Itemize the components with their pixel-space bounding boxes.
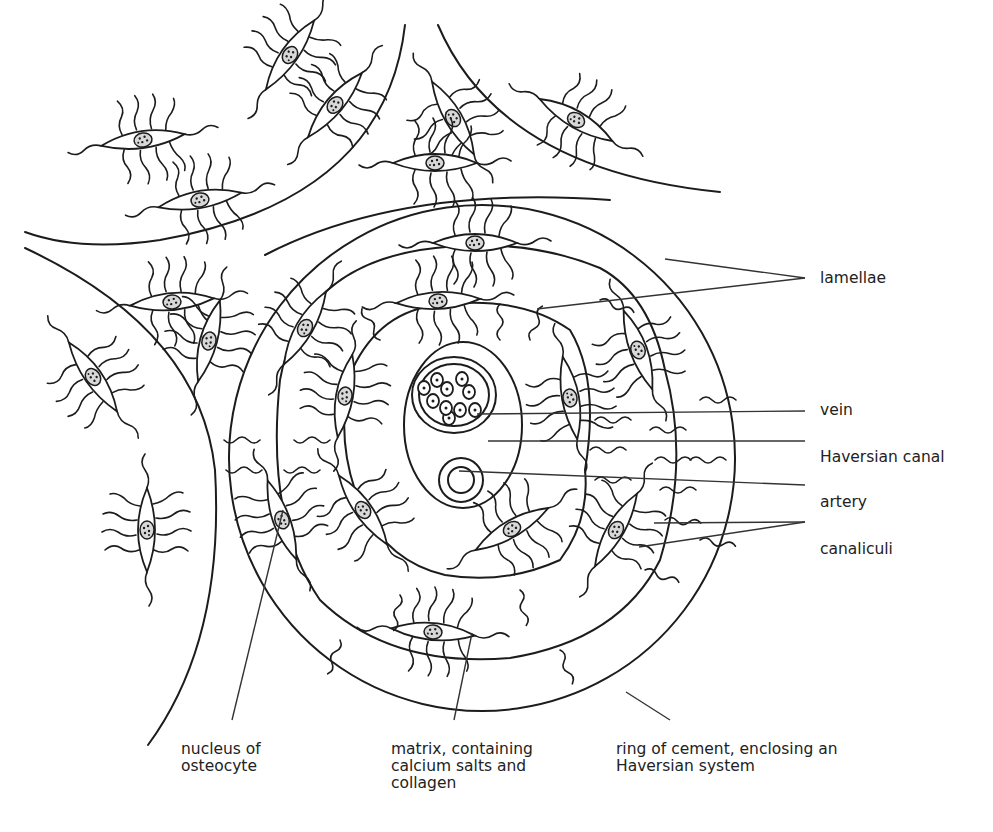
label-artery: artery: [820, 494, 867, 511]
label-lamellae: lamellae: [820, 270, 886, 287]
osteocytes: [214, 198, 707, 682]
label-haversian-canal: Haversian canal: [820, 449, 945, 466]
outer-osteocytes: [13, 0, 664, 606]
label-vein: vein: [820, 402, 853, 419]
lamellae-rings: [277, 245, 677, 659]
label-matrix: matrix, containing calcium salts and col…: [391, 741, 533, 792]
artery: [439, 458, 483, 502]
vein-blood-cells: [418, 372, 481, 425]
label-nucleus-of-osteocyte: nucleus of osteocyte: [181, 741, 261, 775]
label-canaliculi: canaliculi: [820, 541, 893, 558]
label-ring-of-cement: ring of cement, enclosing an Haversian s…: [616, 741, 838, 775]
